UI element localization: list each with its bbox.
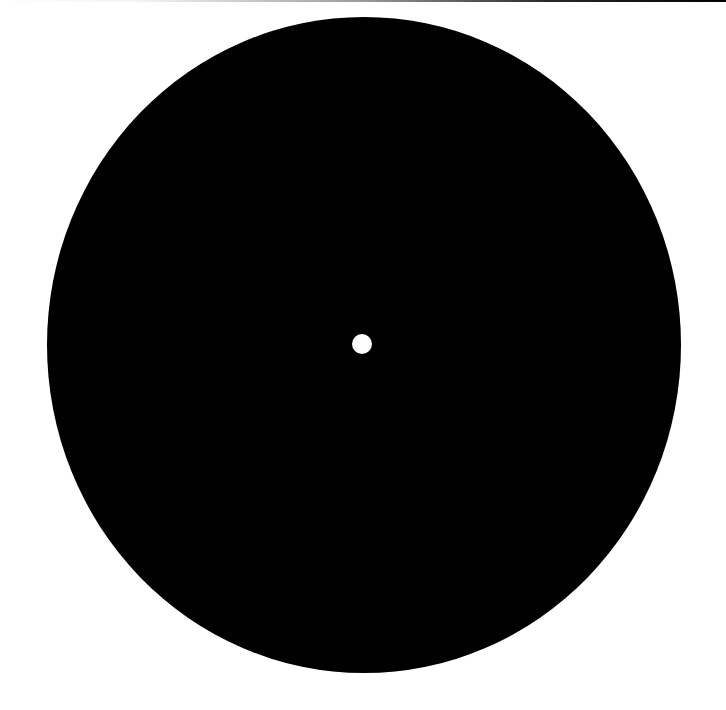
top-gradient-line	[0, 0, 726, 2]
center-hole	[352, 334, 372, 354]
